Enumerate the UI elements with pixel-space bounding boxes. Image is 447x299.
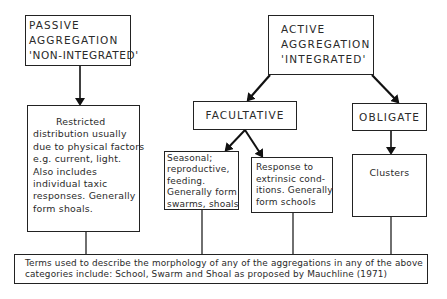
restricted-line-6: individual taxic (33, 178, 139, 190)
facultative-box: FACULTATIVE (193, 101, 297, 130)
active-line-3: 'INTEGRATED' (281, 52, 373, 67)
seasonal-line-2: reproductive, (167, 164, 238, 175)
obligate-box: OBLIGATE (352, 103, 427, 131)
facultative-label: FACULTATIVE (194, 108, 296, 123)
response-line-2: extrinsic cond- (256, 174, 332, 186)
clusters-label: Clusters (353, 167, 426, 179)
seasonal-line-4: Generally form (167, 187, 238, 198)
restricted-distribution-box: Restricted distribution usually due to p… (27, 105, 140, 232)
terms-box: Terms used to describe the morphology of… (14, 254, 428, 284)
seasonal-line-5: swarms, shoals (167, 199, 238, 210)
restricted-line-5: Also includes (33, 166, 139, 178)
seasonal-line-1: Seasonal; (167, 153, 238, 164)
restricted-line-8: form shoals. (33, 203, 139, 215)
response-line-3: itions. Generally (256, 185, 332, 197)
seasonal-box: Seasonal; reproductive, feeding. General… (164, 151, 239, 210)
terms-line-2: categories include: School, Swarm and Sh… (25, 269, 427, 280)
response-line-1: Response to (256, 162, 332, 174)
response-box: Response to extrinsic cond- itions. Gene… (251, 157, 333, 213)
passive-line-1: PASSIVE (29, 18, 130, 33)
passive-line-3: 'NON-INTEGRATED' (29, 48, 130, 63)
restricted-line-7: responses. Generally (33, 190, 139, 202)
passive-aggregation-box: PASSIVE AGGREGATION 'NON-INTEGRATED' (25, 15, 131, 66)
terms-line-1: Terms used to describe the morphology of… (25, 258, 427, 269)
restricted-line-4: e.g. current, light. (33, 153, 139, 165)
seasonal-line-3: feeding. (167, 176, 238, 187)
restricted-line-2: distribution usually (33, 128, 139, 140)
clusters-box: Clusters (352, 154, 427, 217)
obligate-label: OBLIGATE (353, 110, 426, 125)
active-line-1: ACTIVE (281, 22, 373, 37)
restricted-line-1: Restricted (33, 116, 139, 128)
response-line-4: form schools (256, 197, 332, 209)
active-aggregation-box: ACTIVE AGGREGATION 'INTEGRATED' (268, 15, 374, 75)
passive-line-2: AGGREGATION (29, 33, 130, 48)
active-line-2: AGGREGATION (281, 37, 373, 52)
restricted-line-3: due to physical factors (33, 141, 139, 153)
